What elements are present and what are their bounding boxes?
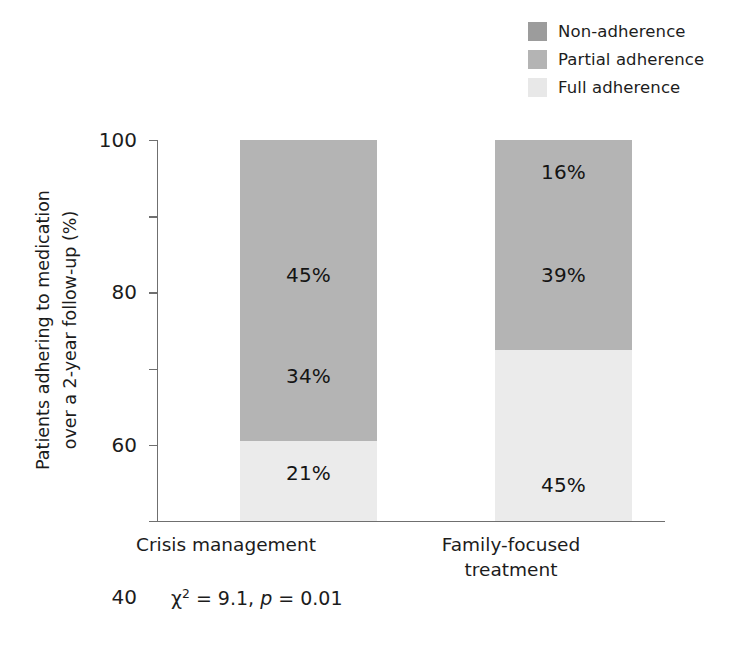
bar-0-segment-non-adherence[interactable]: 45%: [240, 140, 377, 311]
bar-1-segment-value-2: 45%: [541, 475, 586, 495]
bar-1-segment-value-1: 39%: [541, 265, 586, 285]
chi-square-value: = 9.1,: [190, 587, 260, 609]
legend-item-non-adherence: Non-adherence: [528, 22, 704, 41]
bar-0-segment-value-2: 21%: [286, 463, 331, 483]
bar-0-segment-full-adherence[interactable]: 21%: [240, 441, 377, 521]
legend-item-full-adherence: Full adherence: [528, 78, 704, 97]
y-tick-mark-80: 80: [149, 216, 157, 217]
x-axis-category-label-0: Crisis management: [111, 532, 341, 557]
chart-legend: Non-adherence Partial adherence Full adh…: [528, 22, 704, 97]
p-value: = 0.01: [272, 587, 342, 609]
bar-1-segment-full-adherence[interactable]: 45%: [495, 350, 632, 521]
category-0-line1: Crisis management: [111, 532, 341, 557]
y-tick-label-80: 80: [112, 282, 137, 302]
y-axis-title: Patients adhering to medication over a 2…: [28, 150, 84, 510]
p-symbol: p: [260, 587, 272, 609]
legend-label-non-adherence: Non-adherence: [558, 22, 686, 41]
statistics-annotation: χ2 = 9.1, p = 0.01: [171, 588, 343, 608]
chi-square-exponent: 2: [182, 587, 190, 601]
legend-label-partial-adherence: Partial adherence: [558, 50, 704, 69]
legend-swatch-partial-adherence: [528, 50, 547, 69]
legend-item-partial-adherence: Partial adherence: [528, 50, 704, 69]
bar-0-segment-value-1: 34%: [286, 366, 331, 386]
plot-area: 100806040200 45%34%21%16%39%45% Crisis m…: [157, 140, 665, 521]
bar-0-segment-value-0: 45%: [286, 265, 331, 285]
legend-swatch-full-adherence: [528, 78, 547, 97]
y-axis-title-line2: over a 2-year follow-up (%): [58, 211, 82, 450]
stacked-bar-0[interactable]: 45%34%21%: [240, 140, 377, 521]
x-axis-category-label-1: Family-focused treatment: [396, 532, 626, 582]
legend-swatch-non-adherence: [528, 22, 547, 41]
bar-1-segment-non-adherence[interactable]: 16%: [495, 140, 632, 201]
y-tick-label-100: 100: [99, 130, 137, 150]
bar-1-segment-partial-adherence[interactable]: 39%: [495, 201, 632, 350]
y-tick-mark-60: 60: [149, 292, 157, 293]
y-tick-mark-100: 100: [149, 140, 157, 141]
category-1-line1: Family-focused: [396, 532, 626, 557]
y-tick-mark-20: 20: [149, 445, 157, 446]
legend-label-full-adherence: Full adherence: [558, 78, 680, 97]
stacked-bar-1[interactable]: 16%39%45%: [495, 140, 632, 521]
chi-square-symbol: χ: [171, 587, 182, 609]
y-tick-label-40: 40: [112, 587, 137, 607]
category-1-line2: treatment: [396, 557, 626, 582]
bar-1-segment-value-0: 16%: [541, 162, 586, 182]
y-axis-line: [157, 140, 158, 521]
bar-0-segment-partial-adherence[interactable]: 34%: [240, 311, 377, 441]
y-tick-label-60: 60: [112, 435, 137, 455]
y-axis-title-line1: Patients adhering to medication: [31, 190, 55, 470]
x-axis-line: [157, 521, 665, 522]
y-tick-mark-0: 0: [149, 521, 157, 522]
y-tick-mark-40: 40: [149, 369, 157, 370]
